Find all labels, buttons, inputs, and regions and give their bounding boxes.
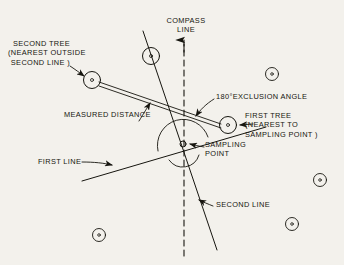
tree-lower-right [286,218,299,231]
tree-right [314,174,327,187]
tree-first [220,117,237,134]
measured-distance-line-b [99,86,221,128]
label-exclusion-angle: 180°EXCLUSION ANGLE [216,92,316,101]
label-measured-distance: MEASURED DISTANCE [64,110,154,119]
label-first-tree: FIRST TREE (NEAREST TO SAMPLING POINT ) [245,111,341,139]
tree-lower-left [93,229,106,242]
label-first-line: FIRST LINE [38,157,84,166]
label-second-line: SECOND LINE [216,200,286,209]
tree-second [84,72,101,89]
tree-upper-right [266,68,279,81]
label-sampling-point: SAMPLING POINT [205,140,265,159]
label-compass-line: COMPASS LINE [156,16,216,35]
label-second-tree: SECOND TREE (NEAREST OUTSIDE SECOND LINE… [8,39,70,67]
exclusion-angle-leader [196,99,214,116]
second-tree-leader [70,66,84,76]
first-line-leader [82,162,112,165]
